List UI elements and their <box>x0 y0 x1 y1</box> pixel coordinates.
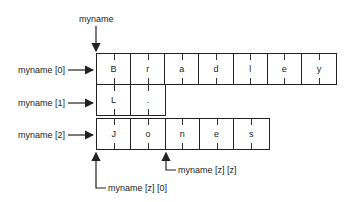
char-cell: y <box>302 54 336 84</box>
char-cell: r <box>131 54 165 84</box>
char-cell: n <box>166 119 200 149</box>
array-row-0: B r a d l e y <box>96 53 337 85</box>
char-cell: o <box>131 119 165 149</box>
char-cell: . <box>131 85 165 115</box>
char-cell: a <box>165 54 199 84</box>
array-row-1: L . <box>96 84 166 116</box>
char-cell: L <box>97 85 131 115</box>
row2-label: myname [2] <box>18 130 65 140</box>
element-z0-label: myname [z] [0] <box>108 183 167 193</box>
row1-label: myname [1] <box>18 98 65 108</box>
char-cell: J <box>97 119 131 149</box>
myname-label: myname <box>79 14 114 24</box>
char-cell: s <box>234 119 268 149</box>
element-zz-label: myname [z] [z] <box>178 165 237 175</box>
row0-label: myname [0] <box>18 65 65 75</box>
element-z0-arrow-icon <box>96 153 106 188</box>
array-row-2: J o n e s <box>96 118 270 150</box>
element-zz-arrow-icon <box>166 153 176 170</box>
char-cell: B <box>97 54 131 84</box>
char-cell: l <box>234 54 268 84</box>
char-cell: e <box>268 54 302 84</box>
char-cell: d <box>199 54 233 84</box>
char-cell: e <box>200 119 234 149</box>
